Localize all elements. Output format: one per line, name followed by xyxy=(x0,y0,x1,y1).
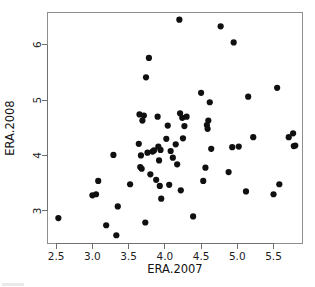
data-point xyxy=(198,90,204,96)
data-point xyxy=(136,141,142,147)
data-point xyxy=(226,169,232,175)
data-point xyxy=(200,178,206,184)
x-axis-title: ERA.2007 xyxy=(147,262,202,276)
data-point xyxy=(245,94,251,100)
scatter-plot-figure: 2.53.03.54.04.55.05.5 3456 ERA.2007 ERA.… xyxy=(0,0,315,287)
data-point xyxy=(250,134,256,140)
data-point xyxy=(274,85,280,91)
data-point xyxy=(110,152,116,158)
data-point xyxy=(183,114,189,120)
data-point xyxy=(127,181,133,187)
data-point xyxy=(173,141,179,147)
data-point xyxy=(113,232,119,238)
data-point xyxy=(231,39,237,45)
data-point xyxy=(138,152,144,158)
data-point xyxy=(178,187,184,193)
x-tick-label: 5.0 xyxy=(229,250,246,262)
x-tick-label: 3.0 xyxy=(84,250,101,262)
data-point xyxy=(147,171,153,177)
data-point xyxy=(170,155,176,161)
data-point xyxy=(166,182,172,188)
data-point xyxy=(115,203,121,209)
data-point xyxy=(190,213,196,219)
data-point xyxy=(270,191,276,197)
data-point xyxy=(95,178,101,184)
data-point xyxy=(174,161,180,167)
x-tick-label: 3.5 xyxy=(120,250,137,262)
page-edge-artifact xyxy=(2,283,24,286)
y-tick-label: 4 xyxy=(32,152,44,159)
x-tick-label: 4.0 xyxy=(157,250,174,262)
data-point xyxy=(153,177,159,183)
y-tick-label: 6 xyxy=(32,41,44,48)
data-point xyxy=(168,148,174,154)
data-point xyxy=(218,23,224,29)
data-point xyxy=(276,181,282,187)
data-point xyxy=(292,142,298,148)
x-tick-label: 5.5 xyxy=(265,250,282,262)
data-point xyxy=(229,144,235,150)
data-point xyxy=(158,196,164,202)
data-point xyxy=(181,123,187,129)
data-point xyxy=(156,157,162,163)
data-point xyxy=(207,99,213,105)
data-point xyxy=(243,188,249,194)
y-tick-label: 3 xyxy=(32,208,44,215)
data-point xyxy=(208,146,214,152)
data-point xyxy=(236,143,242,149)
data-point xyxy=(141,112,147,118)
data-point xyxy=(205,126,211,132)
data-point xyxy=(202,165,208,171)
data-point xyxy=(165,122,171,128)
data-point xyxy=(157,183,163,189)
data-point xyxy=(163,136,169,142)
data-point xyxy=(155,114,161,120)
data-point xyxy=(93,191,99,197)
data-point xyxy=(139,166,145,172)
x-tick-label: 2.5 xyxy=(48,250,65,262)
plot-canvas: 2.53.03.54.04.55.05.5 3456 ERA.2007 ERA.… xyxy=(0,0,315,287)
data-point xyxy=(176,17,182,23)
data-point xyxy=(143,74,149,80)
data-point xyxy=(146,55,152,61)
y-tick-label: 5 xyxy=(32,97,44,104)
data-point xyxy=(103,222,109,228)
data-point xyxy=(142,219,148,225)
data-point xyxy=(290,130,296,136)
x-tick-label: 4.5 xyxy=(193,250,210,262)
data-point xyxy=(180,135,186,141)
y-axis-title: ERA.2008 xyxy=(3,100,17,155)
data-point xyxy=(205,117,211,123)
data-point xyxy=(157,147,163,153)
data-point xyxy=(55,215,61,221)
